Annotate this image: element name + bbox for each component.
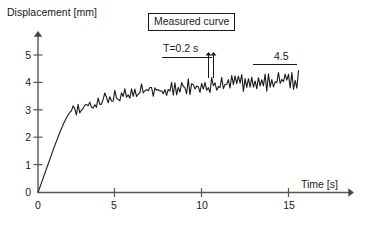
displacement-time-chart: Displacement [mm] Time [s] 5 4 3 2 1 0 0… xyxy=(0,0,374,235)
measured-curve-line xyxy=(38,71,299,193)
period-annotation-marker xyxy=(162,54,214,78)
plot-area xyxy=(0,0,374,235)
